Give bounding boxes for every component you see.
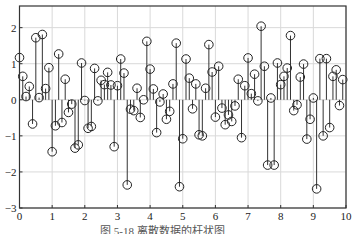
stem-point [54, 50, 63, 100]
x-tick-label: 0 [17, 210, 23, 222]
x-tick-label: 6 [213, 210, 219, 222]
x-tick-label: 10 [341, 210, 352, 222]
y-tick-label: −2 [5, 166, 17, 178]
stem-point [159, 90, 168, 100]
stem-chart: 012345678910−3−2−1012 [0, 0, 352, 222]
stem-point [319, 100, 328, 140]
x-tick-label: 2 [82, 210, 88, 222]
stem-point [263, 100, 272, 170]
x-tick-label: 1 [49, 210, 55, 222]
y-tick-label: 0 [11, 94, 17, 106]
figure-caption: 图 5-18 离散数据的杆状图 [100, 222, 300, 234]
x-tick-label: 3 [115, 210, 121, 222]
stem-point [28, 100, 37, 128]
y-tick-label: −3 [5, 202, 17, 214]
stem-point [61, 75, 70, 100]
stem-point [325, 100, 334, 132]
stem-point [192, 80, 201, 100]
stem-point [322, 54, 331, 99]
stem-point [270, 100, 279, 170]
x-tick-label: 7 [245, 210, 251, 222]
x-tick-label: 5 [180, 210, 186, 222]
x-tick-label: 4 [147, 210, 153, 222]
stem-point [335, 100, 344, 110]
stem-point [188, 100, 197, 113]
y-tick-label: 2 [11, 22, 17, 34]
y-tick-label: −1 [5, 130, 17, 142]
x-tick-label: 9 [311, 210, 317, 222]
stem-point [32, 33, 41, 99]
x-tick-label: 8 [278, 210, 284, 222]
stem-series [15, 22, 347, 193]
y-tick-label: 1 [11, 58, 17, 70]
